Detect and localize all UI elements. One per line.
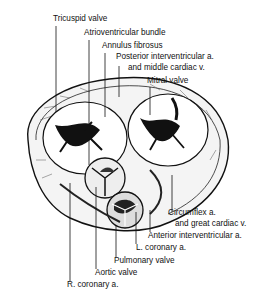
label-tricuspid-valve: Tricuspid valve — [53, 14, 107, 23]
label-atrioventricular-bundle: Atrioventricular bundle — [84, 28, 165, 37]
label-pulmonary-valve: Pulmonary valve — [114, 256, 175, 265]
label-circumflex: Circumflex a. — [168, 208, 216, 217]
label-middle-cardiac: and middle cardiac v. — [128, 63, 205, 72]
label-r-coronary: R. coronary a. — [67, 280, 118, 289]
label-posterior-interventricular: Posterior interventricular a. — [116, 52, 214, 61]
label-anterior-interventricular: Anterior interventricular a. — [148, 231, 242, 240]
label-l-coronary: L. coronary a. — [136, 243, 186, 252]
label-aortic-valve: Aortic valve — [95, 268, 137, 277]
label-annulus-fibrosus: Annulus fibrosus — [102, 41, 163, 50]
label-great-cardiac: and great cardiac v. — [175, 219, 246, 228]
label-mitral-valve: Mitral valve — [147, 76, 188, 85]
